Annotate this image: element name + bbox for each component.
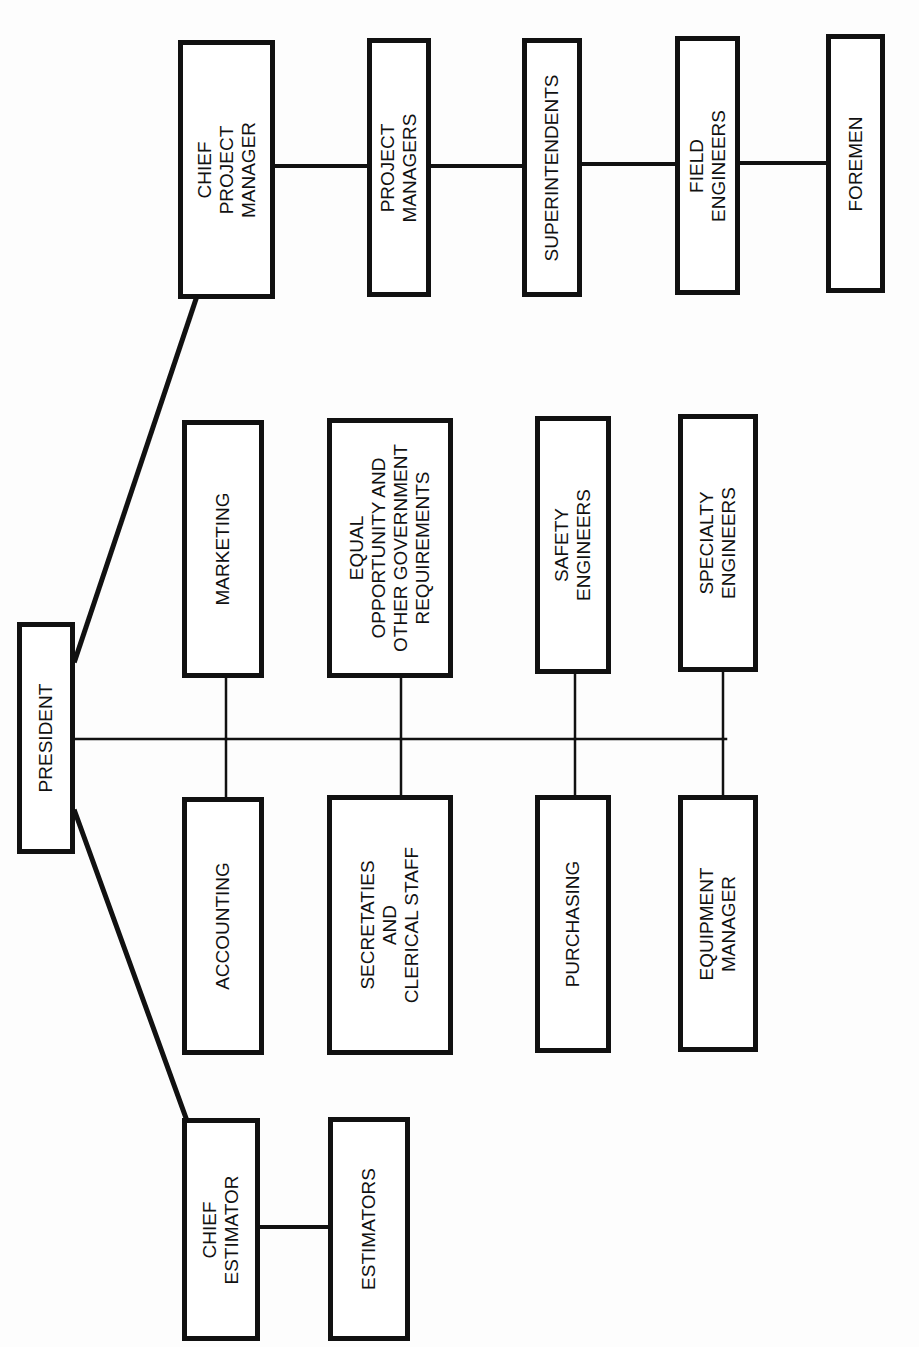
node-label-line: ENGINEERS: [573, 489, 595, 601]
node-label-line: ESTIMATOR: [221, 1175, 243, 1284]
node-label-line: REQUIREMENTS: [412, 444, 434, 652]
node-label-line: CHIEF: [199, 1175, 221, 1284]
node-label: ESTIMATORS: [358, 1168, 380, 1290]
node-label-line: EQUAL: [346, 444, 368, 652]
connector-lines: [0, 0, 919, 1347]
node-label-line: AND: [379, 847, 401, 1003]
node-label-line: MANAGER: [238, 121, 260, 217]
node-label: SPECIALTYENGINEERS: [696, 487, 740, 599]
node-accounting: ACCOUNTING: [182, 797, 264, 1055]
node-label: ACCOUNTING: [212, 862, 234, 990]
node-label-line: PURCHASING: [562, 861, 584, 988]
node-label-line: FOREMEN: [845, 116, 867, 211]
node-label-line: ENGINEERS: [718, 487, 740, 599]
node-label-line: ENGINEERS: [708, 110, 730, 222]
node-field-engineers: FIELDENGINEERS: [675, 36, 740, 295]
node-label-line: SAFETY: [551, 489, 573, 601]
node-label-line: PROJECT: [216, 121, 238, 217]
node-purchasing: PURCHASING: [535, 795, 611, 1053]
node-label-line: SECRETATIES: [357, 847, 379, 1003]
node-label-line: OTHER GOVERNMENT: [390, 444, 412, 652]
node-label: PURCHASING: [562, 861, 584, 988]
node-label-line: PRESIDENT: [35, 684, 57, 793]
node-label-line: OPPORTUNITY AND: [368, 444, 390, 652]
node-label-line: SPECIALTY: [696, 487, 718, 599]
node-superintendents: SUPERINTENDENTS: [522, 38, 582, 297]
node-label-line: CHIEF: [194, 121, 216, 217]
node-label: PROJECTMANAGERS: [377, 113, 421, 222]
node-label: PRESIDENT: [35, 684, 57, 793]
node-label-line: MARKETING: [212, 493, 234, 606]
node-label: FIELDENGINEERS: [686, 110, 730, 222]
node-label-line: PROJECT: [377, 113, 399, 222]
node-label-line: EQUIPMENT: [696, 867, 718, 980]
node-label-line: ACCOUNTING: [212, 862, 234, 990]
node-label-line: MANAGERS: [399, 113, 421, 222]
node-label-line: ESTIMATORS: [358, 1168, 380, 1290]
node-label-line: MANAGER: [718, 867, 740, 980]
node-project-managers: PROJECTMANAGERS: [367, 38, 431, 297]
node-marketing: MARKETING: [182, 420, 264, 678]
node-chief-project-manager: CHIEFPROJECTMANAGER: [178, 40, 275, 299]
node-label-line: SUPERINTENDENTS: [541, 74, 563, 261]
node-label-line: FIELD: [686, 110, 708, 222]
node-specialty-engineers: SPECIALTYENGINEERS: [678, 414, 758, 672]
node-label: EQUALOPPORTUNITY ANDOTHER GOVERNMENTREQU…: [346, 444, 434, 652]
node-estimators: ESTIMATORS: [328, 1117, 410, 1341]
node-label: CHIEFESTIMATOR: [199, 1175, 243, 1284]
node-president: PRESIDENT: [17, 622, 75, 854]
org-chart: PRESIDENTCHIEFPROJECTMANAGERPROJECTMANAG…: [0, 0, 919, 1347]
node-label: SUPERINTENDENTS: [541, 74, 563, 261]
node-label: CHIEFPROJECTMANAGER: [194, 121, 260, 217]
node-label: SECRETATIESANDCLERICAL STAFF: [357, 847, 423, 1003]
connector-president-to-chief_project_manager: [75, 299, 196, 660]
node-equal-opportunity: EQUALOPPORTUNITY ANDOTHER GOVERNMENTREQU…: [327, 418, 453, 678]
connector-president-to-chief_estimator: [75, 812, 186, 1118]
node-secretaries-clerical: SECRETATIESANDCLERICAL STAFF: [327, 795, 453, 1055]
node-safety-engineers: SAFETYENGINEERS: [535, 416, 611, 674]
node-chief-estimator: CHIEFESTIMATOR: [182, 1118, 260, 1341]
node-label: FOREMEN: [845, 116, 867, 211]
node-equipment-manager: EQUIPMENTMANAGER: [678, 795, 758, 1052]
node-label: EQUIPMENTMANAGER: [696, 867, 740, 980]
node-foremen: FOREMEN: [826, 34, 885, 293]
node-label: SAFETYENGINEERS: [551, 489, 595, 601]
node-label-line: CLERICAL STAFF: [401, 847, 423, 1003]
node-label: MARKETING: [212, 493, 234, 606]
